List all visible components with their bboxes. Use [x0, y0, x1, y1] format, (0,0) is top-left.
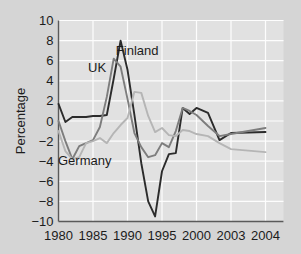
y-axis-tick-label: 8 — [46, 33, 53, 48]
y-axis-tick-label: −2 — [39, 134, 54, 149]
x-axis-tick-label: 1995 — [148, 228, 177, 243]
y-axis-tick-label: 0 — [46, 114, 53, 129]
x-axis-tick-label: 2003 — [217, 228, 246, 243]
y-axis-title-group: Percentage — [13, 88, 28, 155]
y-axis-tick-label: 2 — [46, 93, 53, 108]
y-axis-tick-label: 10 — [39, 13, 53, 28]
y-axis-tick-label: −4 — [39, 154, 54, 169]
y-axis-tick-label: −8 — [39, 194, 54, 209]
x-axis-tick-label: 1980 — [44, 228, 73, 243]
x-axis-tick-label: 1985 — [79, 228, 108, 243]
y-axis-tick-label: 4 — [46, 73, 53, 88]
chart-svg: 1086420−2−4−6−8−10 198019851990199520002… — [0, 0, 301, 254]
x-axis-tick-label: 1990 — [113, 228, 142, 243]
y-axis-title: Percentage — [13, 88, 28, 155]
y-axis-tick-label: 6 — [46, 53, 53, 68]
series-label-germany: Germany — [58, 153, 112, 168]
x-axis-tick-label: 2004 — [251, 228, 280, 243]
series-label-uk: UK — [88, 60, 106, 75]
chart-figure: 1086420−2−4−6−8−10 198019851990199520002… — [0, 0, 301, 254]
series-label-finland: Finland — [116, 43, 159, 58]
x-axis-tick-label: 2000 — [182, 228, 211, 243]
y-axis-tick-label: −6 — [39, 174, 54, 189]
x-axis-ticks: 1980198519901995200020032004 — [44, 228, 280, 243]
